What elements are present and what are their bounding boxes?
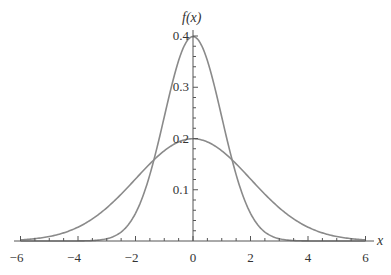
x-tick-label: −4 bbox=[67, 250, 81, 265]
y-tick-label: 0.3 bbox=[173, 79, 189, 94]
y-axis-ticks: 0.10.20.30.4 bbox=[173, 28, 198, 231]
y-tick-label: 0.2 bbox=[173, 131, 189, 146]
y-tick-label: 0.4 bbox=[173, 28, 190, 43]
x-tick-label: 2 bbox=[247, 250, 254, 265]
y-tick-label: 0.1 bbox=[173, 182, 189, 197]
x-tick-label: −2 bbox=[125, 250, 139, 265]
x-tick-label: 6 bbox=[362, 250, 369, 265]
x-tick-label: 0 bbox=[190, 250, 197, 265]
x-tick-label: 4 bbox=[305, 250, 312, 265]
x-tick-label: −6 bbox=[10, 250, 24, 265]
x-axis-label: x bbox=[376, 233, 384, 248]
normal-density-plot: −6−4−20246 0.10.20.30.4 x f(x) bbox=[0, 0, 391, 275]
y-axis-label: f(x) bbox=[182, 10, 202, 26]
